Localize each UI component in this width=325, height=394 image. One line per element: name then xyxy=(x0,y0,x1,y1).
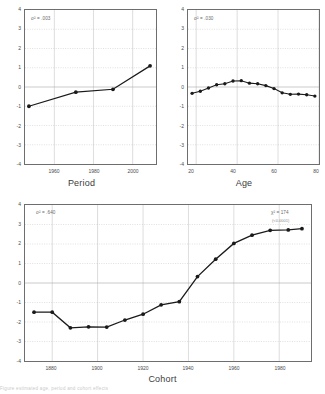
age-axis-title: Age xyxy=(163,178,325,188)
period-ytick-m3: -3 xyxy=(8,143,21,148)
cohort-plot-area xyxy=(24,204,312,362)
apc-figure: 4 3 2 1 0 -1 -2 -3 -4 1960 1980 2000 σ² … xyxy=(0,0,325,394)
age-variance-annotation: σ² = .030 xyxy=(194,16,213,21)
cohort-ytick-4: 4 xyxy=(8,202,21,207)
age-plot-area xyxy=(187,9,320,165)
cohort-ytick-2: 2 xyxy=(8,241,21,246)
period-ytick-1: 1 xyxy=(8,65,21,70)
period-ytick-m4: -4 xyxy=(8,162,21,167)
age-series-markers xyxy=(190,79,316,98)
period-ytick-4: 4 xyxy=(8,7,21,12)
cohort-chisq-annotation: χ² = 174 xyxy=(271,210,289,215)
period-plot-area xyxy=(24,9,157,165)
cohort-ytick-m4: -4 xyxy=(8,359,21,364)
age-series-line xyxy=(192,81,315,96)
period-axis-title: Period xyxy=(0,178,163,188)
age-ytick-3: 3 xyxy=(171,26,184,31)
cohort-ytick-m3: -3 xyxy=(8,339,21,344)
age-xtick-60: 60 xyxy=(266,169,282,174)
cohort-variance-annotation: σ² = .640 xyxy=(36,210,55,215)
period-ytick-2: 2 xyxy=(8,46,21,51)
period-ytick-m2: -2 xyxy=(8,124,21,129)
age-ytick-m3: -3 xyxy=(171,143,184,148)
panel-age: 4 3 2 1 0 -1 -2 -3 -4 20 40 60 80 σ² = .… xyxy=(163,0,325,197)
age-ytick-m2: -2 xyxy=(171,124,184,129)
cohort-xtick-1920: 1920 xyxy=(131,366,155,371)
age-plot-svg xyxy=(188,10,319,164)
age-ytick-m4: -4 xyxy=(171,162,184,167)
cohort-ytick-1: 1 xyxy=(8,261,21,266)
cohort-xtick-1900: 1900 xyxy=(85,366,109,371)
age-xtick-20: 20 xyxy=(183,169,199,174)
period-xtick-1960: 1960 xyxy=(42,169,66,174)
age-ytick-1: 1 xyxy=(171,65,184,70)
cohort-xtick-1940: 1940 xyxy=(176,366,200,371)
cohort-ytick-m2: -2 xyxy=(8,320,21,325)
age-xtick-80: 80 xyxy=(308,169,324,174)
cohort-pvalue-annotation: (<0.0001) xyxy=(272,218,289,223)
age-ytick-m1: -1 xyxy=(171,104,184,109)
cohort-axis-title: Cohort xyxy=(0,374,325,384)
panel-cohort: 4 3 2 1 0 -1 -2 -3 -4 1880 1900 1920 194… xyxy=(0,197,325,394)
period-variance-annotation: σ² = .003 xyxy=(31,16,50,21)
period-plot-svg xyxy=(25,10,156,164)
cohort-xtick-1980: 1980 xyxy=(268,366,292,371)
cohort-series-line xyxy=(34,229,302,328)
figure-caption: Figure estimated age, period and cohort … xyxy=(0,386,325,391)
cohort-series-markers xyxy=(32,227,304,330)
period-ytick-m1: -1 xyxy=(8,104,21,109)
age-ytick-0: 0 xyxy=(171,85,184,90)
cohort-ytick-0: 0 xyxy=(8,281,21,286)
cohort-xtick-1880: 1880 xyxy=(39,366,63,371)
period-ytick-0: 0 xyxy=(8,85,21,90)
age-xtick-40: 40 xyxy=(225,169,241,174)
panel-period: 4 3 2 1 0 -1 -2 -3 -4 1960 1980 2000 σ² … xyxy=(0,0,163,197)
cohort-xtick-1960: 1960 xyxy=(222,366,246,371)
age-ytick-4: 4 xyxy=(171,7,184,12)
age-ytick-2: 2 xyxy=(171,46,184,51)
period-ytick-3: 3 xyxy=(8,26,21,31)
cohort-plot-svg xyxy=(25,205,311,361)
period-series-line xyxy=(29,66,150,106)
period-xtick-1980: 1980 xyxy=(82,169,106,174)
cohort-ytick-m1: -1 xyxy=(8,300,21,305)
period-xtick-2000: 2000 xyxy=(121,169,145,174)
cohort-ytick-3: 3 xyxy=(8,222,21,227)
